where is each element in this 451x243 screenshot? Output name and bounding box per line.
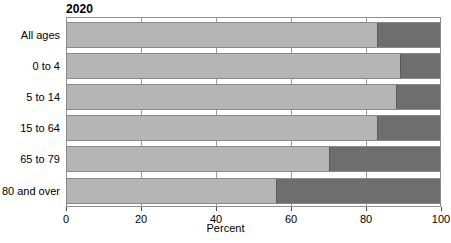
plot-area: All ages0 to 45 to 1415 to 6465 to 7980 … <box>66 17 441 207</box>
bar-row[interactable]: 15 to 64 <box>66 115 441 141</box>
stacked-bar-chart: 2020 All ages0 to 45 to 1415 to 6465 to … <box>0 0 451 243</box>
bar-segment-dark[interactable] <box>276 178 441 204</box>
segment-divider <box>276 178 277 204</box>
x-tick-mark <box>141 207 142 211</box>
bar-segment-dark[interactable] <box>396 84 441 110</box>
bar-segment-light[interactable] <box>66 53 400 79</box>
bar-segment-dark[interactable] <box>377 22 441 48</box>
bar-segment-light[interactable] <box>66 115 377 141</box>
category-label: 65 to 79 <box>0 153 60 165</box>
bar-segment-dark[interactable] <box>329 146 442 172</box>
category-label: 15 to 64 <box>0 122 60 134</box>
x-tick-mark <box>366 207 367 211</box>
bar-segment-dark[interactable] <box>377 115 441 141</box>
segment-divider <box>377 22 378 48</box>
bar-row[interactable]: 65 to 79 <box>66 146 441 172</box>
x-axis-title: Percent <box>0 222 451 235</box>
bar-segment-dark[interactable] <box>400 53 441 79</box>
category-label: All ages <box>0 29 60 41</box>
segment-divider <box>329 146 330 172</box>
category-label: 80 and over <box>0 185 60 197</box>
bar-row[interactable]: All ages <box>66 22 441 48</box>
bar-segment-light[interactable] <box>66 84 396 110</box>
bar-row[interactable]: 5 to 14 <box>66 84 441 110</box>
x-tick-mark <box>216 207 217 211</box>
segment-divider <box>396 84 397 110</box>
bar-segment-light[interactable] <box>66 146 329 172</box>
x-tick-mark <box>291 207 292 211</box>
category-label: 5 to 14 <box>0 91 60 103</box>
chart-title: 2020 <box>66 2 93 16</box>
bar-segment-light[interactable] <box>66 22 377 48</box>
bar-row[interactable]: 0 to 4 <box>66 53 441 79</box>
segment-divider <box>377 115 378 141</box>
category-label: 0 to 4 <box>0 60 60 72</box>
segment-divider <box>400 53 401 79</box>
bar-row[interactable]: 80 and over <box>66 178 441 204</box>
x-tick-mark <box>441 207 442 211</box>
x-tick-mark <box>66 207 67 211</box>
bar-segment-light[interactable] <box>66 178 276 204</box>
